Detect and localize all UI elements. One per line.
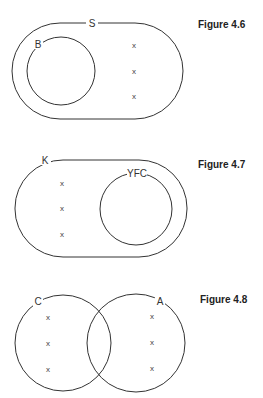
mark-x: x [132,92,136,101]
diagram-canvas: S B x x x K YFC x x x C A x x x x x x [0,0,263,398]
mark-x: x [60,179,64,188]
set-yfc-label: YFC [127,168,147,179]
mark-x: x [46,339,50,348]
mark-x: x [150,338,154,347]
set-c-label: C [34,296,41,307]
set-k-label: K [42,155,49,166]
mark-x: x [46,365,50,374]
set-b-label: B [35,39,42,50]
figure-caption-4-8: Figure 4.8 [200,294,247,305]
mark-x: x [132,67,136,76]
figure-4-8 [15,294,185,392]
set-s-label: S [89,18,96,29]
figure-4-7 [15,160,187,257]
mark-x: x [150,312,154,321]
mark-x: x [60,230,64,239]
set-a-label: A [157,296,164,307]
figure-caption-4-7: Figure 4.7 [198,159,245,170]
mark-x: x [60,204,64,213]
set-a-circle [87,294,185,392]
set-k-stadium [15,160,187,257]
figure-caption-4-6: Figure 4.6 [198,19,245,30]
mark-x: x [132,41,136,50]
set-yfc-circle [100,173,172,245]
mark-x: x [150,364,154,373]
mark-x: x [46,313,50,322]
set-s-stadium [12,23,183,119]
figure-4-6 [12,23,183,119]
set-c-circle [15,295,111,391]
